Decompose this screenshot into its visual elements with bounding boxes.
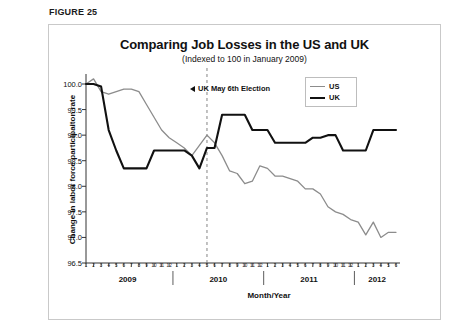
x-axis-year-label: 2011 <box>279 275 339 284</box>
x-tick-label: 6 <box>392 263 400 268</box>
legend-label-uk: UK <box>329 94 340 102</box>
legend-swatch-uk <box>310 97 325 99</box>
uk-election-annotation: UK May 6th Election <box>190 84 270 93</box>
left-triangle-icon <box>190 86 195 92</box>
x-axis-year-label: 2010 <box>188 275 248 284</box>
legend-item-uk: UK <box>310 92 352 103</box>
x-axis-year-label: 2012 <box>347 275 407 284</box>
legend-label-us: US <box>329 83 339 91</box>
legend-swatch-us <box>310 86 325 87</box>
legend-item-us: US <box>310 81 352 92</box>
x-axis-title: Month/Year <box>159 291 379 300</box>
x-axis-year-label: 2009 <box>98 275 158 284</box>
figure-frame: Comparing Job Losses in the US and UK (I… <box>48 24 441 320</box>
chart-legend: US UK <box>305 77 357 107</box>
figure-label: FIGURE 25 <box>49 7 97 17</box>
uk-election-annotation-text: UK May 6th Election <box>198 84 270 93</box>
plot-area: Change in labor force participaiton rate… <box>49 25 442 321</box>
